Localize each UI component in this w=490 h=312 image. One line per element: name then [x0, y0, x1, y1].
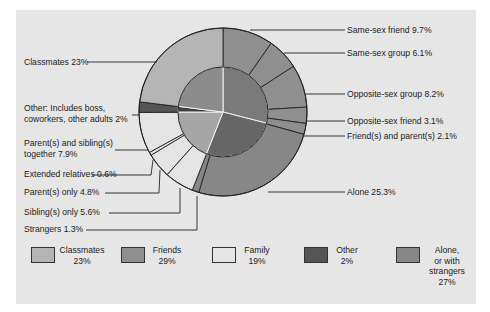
legend-value: 2%: [332, 256, 362, 267]
legend-label: Alone,: [424, 245, 470, 256]
label-siblings-only: Sibling(s) only 5.6%: [24, 207, 100, 218]
legend-label: Family: [240, 245, 274, 256]
label-opposite-sex-friend: Opposite-sex friend 3.1%: [347, 116, 444, 127]
label-other-line1: Other: Includes boss,: [24, 103, 105, 114]
label-same-sex-friend: Same-sex friend 9.7%: [347, 25, 432, 36]
label-parents-only: Parent(s) only 4.8%: [24, 187, 99, 198]
label-other-line2: coworkers, other adults 2%: [24, 114, 128, 125]
label-opposite-sex-group: Opposite-sex group 8.2%: [347, 89, 444, 100]
legend-swatch: [396, 247, 420, 263]
legend-label-line3: strangers: [424, 266, 470, 277]
legend-label-line2: or with: [424, 256, 470, 267]
legend-swatch: [121, 247, 145, 263]
label-parents-siblings-line1: Parent(s) and sibling(s): [24, 138, 113, 149]
legend-value: 27%: [424, 277, 470, 288]
legend-value: 19%: [240, 256, 274, 267]
label-classmates: Classmates 23%: [24, 57, 88, 68]
legend-label: Friends: [149, 245, 185, 256]
label-friends-and-parents: Friend(s) and parent(s) 2.1%: [347, 131, 457, 142]
label-alone: Alone 25.3%: [347, 187, 396, 198]
legend-swatch: [212, 247, 236, 263]
label-same-sex-group: Same-sex group 6.1%: [347, 48, 432, 59]
legend-swatch: [31, 247, 55, 263]
legend-label: Other: [332, 245, 362, 256]
legend-value: 23%: [59, 256, 105, 267]
legend-value: 29%: [149, 256, 185, 267]
label-strangers: Strangers 1.3%: [24, 224, 83, 235]
label-parents-siblings-line2: together 7.9%: [24, 149, 78, 160]
legend-label: Classmates: [59, 245, 105, 256]
inner-pie: [178, 67, 268, 157]
legend-swatch: [304, 247, 328, 263]
label-extended-relatives: Extended relatives 0.6%: [24, 169, 117, 180]
